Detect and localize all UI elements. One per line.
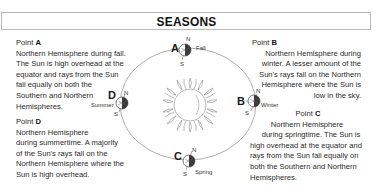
earth-point-d: D N S Summer xyxy=(91,89,128,117)
earth-globe-icon xyxy=(183,155,195,167)
point-a-marker: A xyxy=(171,42,179,54)
season-label-summer: Summer xyxy=(91,102,114,108)
point-b-marker: B xyxy=(237,95,245,107)
earth-globe-icon xyxy=(116,97,128,109)
point-c-marker: C xyxy=(174,150,182,162)
season-label-fall: Fall xyxy=(196,45,206,51)
point-d-marker: D xyxy=(108,89,116,101)
north-label: N xyxy=(124,90,128,96)
earth-point-c: C N S Spring xyxy=(174,147,212,177)
south-label: S xyxy=(245,110,249,116)
north-label: N xyxy=(186,36,190,42)
season-label-spring: Spring xyxy=(195,169,212,175)
south-label: S xyxy=(183,171,187,177)
earth-point-b: B N S Winter xyxy=(237,88,278,116)
earth-globe-icon xyxy=(179,44,191,56)
season-label-winter: Winter xyxy=(261,102,278,108)
south-label: S xyxy=(180,61,184,67)
sun-icon xyxy=(163,78,217,132)
earth-point-a: A N S Fall xyxy=(171,36,206,67)
north-label: N xyxy=(256,88,260,94)
north-label: N xyxy=(192,147,196,153)
south-label: S xyxy=(114,111,118,117)
seasons-orbit-diagram: A N S Fall B N S Winter C N S Spring D N… xyxy=(0,0,376,192)
earth-globe-icon xyxy=(248,95,260,107)
